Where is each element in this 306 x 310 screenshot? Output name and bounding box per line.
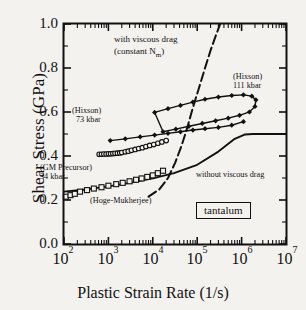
model-curves	[64, 24, 286, 197]
series-Hixson-73-kbar	[108, 119, 246, 143]
chart-figure: Shear Stress (GPa) 1.0 0.8 0.6 0.4 0.2 0…	[0, 0, 306, 310]
plot-area	[0, 0, 306, 310]
data-series	[63, 92, 258, 199]
series-GM-Precursor-34-kbar	[97, 138, 169, 156]
